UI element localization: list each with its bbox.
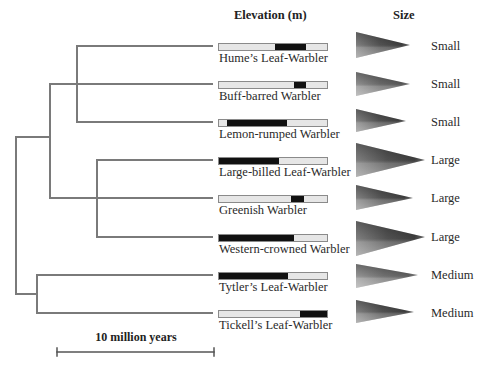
size-label: Small [431,115,460,130]
elevation-bar [218,43,328,51]
elevation-bar [218,310,328,318]
size-label: Medium [431,306,473,321]
elevation-bar [218,234,328,242]
elevation-range [219,158,279,164]
elevation-bar [218,81,328,89]
beak-image [356,264,420,289]
beak-image [356,185,415,211]
size-label: Small [431,77,460,92]
elevation-range [300,311,327,317]
species-label: Tytler’s Leaf-Warbler [219,280,328,295]
elevation-range [275,44,306,50]
elevation-range [291,196,304,202]
size-label: Large [431,153,460,168]
species-label: Tickell’s Leaf-Warbler [219,318,332,333]
size-header: Size [393,8,415,23]
phylogenetic-tree [0,0,220,365]
beak-image [356,143,427,178]
species-label: Large-billed Leaf-Warbler [219,165,351,180]
elevation-range [227,120,287,126]
elevation-bar [218,272,328,280]
beak-image [356,72,412,97]
elevation-range [294,82,307,88]
beak-image [356,300,416,324]
elevation-range [219,273,288,279]
size-label: Small [431,39,460,54]
size-label: Large [431,191,460,206]
elevation-bar [218,119,328,127]
beak-image [356,32,412,59]
elevation-bar [218,195,328,203]
species-label: Western-crowned Warbler [219,242,350,257]
size-label: Large [431,230,460,245]
species-label: Buff-barred Warbler [219,89,321,104]
species-label: Greenish Warbler [219,203,307,218]
beak-image [356,109,408,133]
elevation-header: Elevation (m) [234,8,307,23]
beak-image [356,221,427,257]
elevation-range [219,235,294,241]
size-label: Medium [431,268,473,283]
species-label: Hume’s Leaf-Warbler [219,51,328,66]
elevation-bar [218,157,328,165]
species-label: Lemon-rumped Warbler [219,127,340,142]
